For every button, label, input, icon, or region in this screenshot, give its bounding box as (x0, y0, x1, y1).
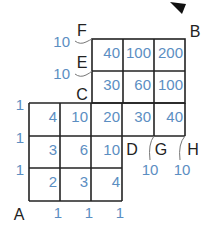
side-label-g: 10 (142, 161, 159, 178)
point-f: F (77, 22, 87, 39)
edge-label: 1 (54, 204, 62, 221)
cell-value: 3 (49, 141, 57, 158)
cell-value: 6 (80, 141, 88, 158)
path-count-diagram: 40 100 200 30 60 100 4 10 20 30 40 3 6 1… (0, 0, 209, 228)
point-a: A (14, 206, 25, 223)
cell-value: 2 (49, 173, 57, 190)
cell-value: 3 (80, 173, 88, 190)
edge-label: 1 (16, 161, 24, 178)
point-b: B (190, 23, 201, 40)
cell-value: 40 (166, 108, 183, 125)
cell-value: 60 (134, 76, 151, 93)
corner-mark-icon (170, 2, 186, 14)
cell-value: 30 (134, 108, 151, 125)
cell-value: 10 (103, 141, 120, 158)
cell-value: 100 (158, 76, 183, 93)
cell-value: 4 (49, 108, 57, 125)
edge-label: 1 (85, 204, 93, 221)
cell-value: 100 (126, 44, 151, 61)
point-e: E (77, 54, 88, 71)
edge-label: 1 (116, 204, 124, 221)
side-label-e: 10 (53, 65, 70, 82)
point-c: C (76, 86, 88, 103)
cell-value: 20 (103, 108, 120, 125)
edge-label: 1 (16, 96, 24, 113)
cell-value: 30 (103, 76, 120, 93)
cell-value: 10 (71, 108, 88, 125)
cell-value: 200 (158, 44, 183, 61)
point-d: D (126, 141, 138, 158)
point-g: G (155, 141, 167, 158)
side-label-f: 10 (53, 33, 70, 50)
cell-value: 4 (112, 173, 120, 190)
side-label-h: 10 (174, 161, 191, 178)
cell-value: 40 (103, 44, 120, 61)
edge-label: 1 (16, 129, 24, 146)
point-h: H (187, 141, 199, 158)
